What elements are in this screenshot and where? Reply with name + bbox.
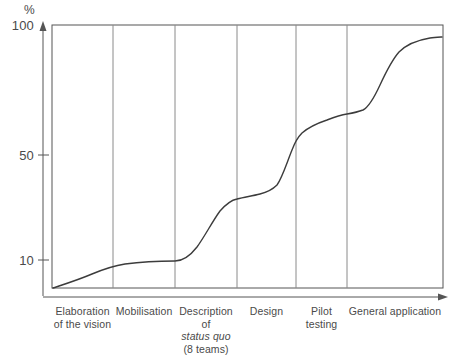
x-category-line1: Elaboration <box>52 305 113 318</box>
x-category-elaboration-of-the-vision: Elaboration of the vision <box>52 305 113 330</box>
x-axis-arrow <box>43 294 448 301</box>
x-category-line1: Pilot testing <box>294 305 349 330</box>
x-category-description-of-status-quo: Description of status quo (8 teams) <box>174 305 238 355</box>
x-category-line1: General application <box>347 305 443 318</box>
x-category-general-application: General application <box>347 305 443 318</box>
x-category-line2: of the vision <box>52 318 113 331</box>
x-category-line3: (8 teams) <box>174 343 238 355</box>
panel-dividers <box>113 25 347 288</box>
progress-curve <box>53 37 442 288</box>
x-category-design: Design <box>237 305 296 318</box>
x-category-line1: Design <box>237 305 296 318</box>
plot-frame <box>52 25 443 288</box>
x-category-line1: Description of <box>174 305 238 330</box>
y-axis-arrow <box>40 21 47 296</box>
x-category-line2: status quo <box>174 330 238 343</box>
x-category-line1: Mobilisation <box>113 305 175 318</box>
x-category-mobilisation: Mobilisation <box>113 305 175 318</box>
x-category-pilot-testing: Pilot testing <box>294 305 349 330</box>
